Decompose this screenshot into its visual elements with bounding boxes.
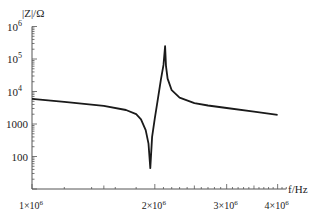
impedance-chart: 10010001041051061×1062×1063×1064×106 |Z|… — [0, 0, 316, 220]
ticks — [32, 27, 286, 190]
x-tick-label: 2×106 — [142, 199, 167, 211]
y-axis-label: |Z|/Ω — [22, 7, 44, 19]
x-tick-label: 4×106 — [265, 199, 290, 211]
y-tick-label: 100 — [12, 151, 29, 163]
x-tick-label: 1×106 — [19, 199, 44, 211]
x-tick-label: 3×106 — [214, 199, 239, 211]
y-tick-label: 106 — [7, 19, 22, 33]
y-tick-label: 104 — [7, 84, 22, 98]
y-tick-label: 105 — [7, 51, 22, 65]
tick-labels: 10010001041051061×1062×1063×1064×106 — [6, 19, 289, 212]
axes — [32, 27, 286, 190]
y-tick-label: 1000 — [6, 118, 29, 130]
x-axis-label: f/Hz — [288, 183, 308, 195]
impedance-curve — [32, 46, 278, 168]
